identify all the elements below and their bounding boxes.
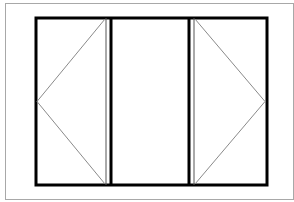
left-swing-line-top bbox=[37, 19, 105, 102]
outer-border bbox=[6, 4, 294, 200]
window-frame bbox=[36, 18, 267, 185]
right-swing-line-top bbox=[195, 19, 265, 102]
left-swing-line-bottom bbox=[37, 102, 105, 185]
right-casement-panel bbox=[194, 18, 265, 185]
window-elevation-diagram bbox=[0, 0, 294, 202]
center-fixed-panel bbox=[111, 18, 189, 185]
left-casement-panel bbox=[37, 18, 106, 185]
right-swing-line-bottom bbox=[195, 102, 265, 185]
